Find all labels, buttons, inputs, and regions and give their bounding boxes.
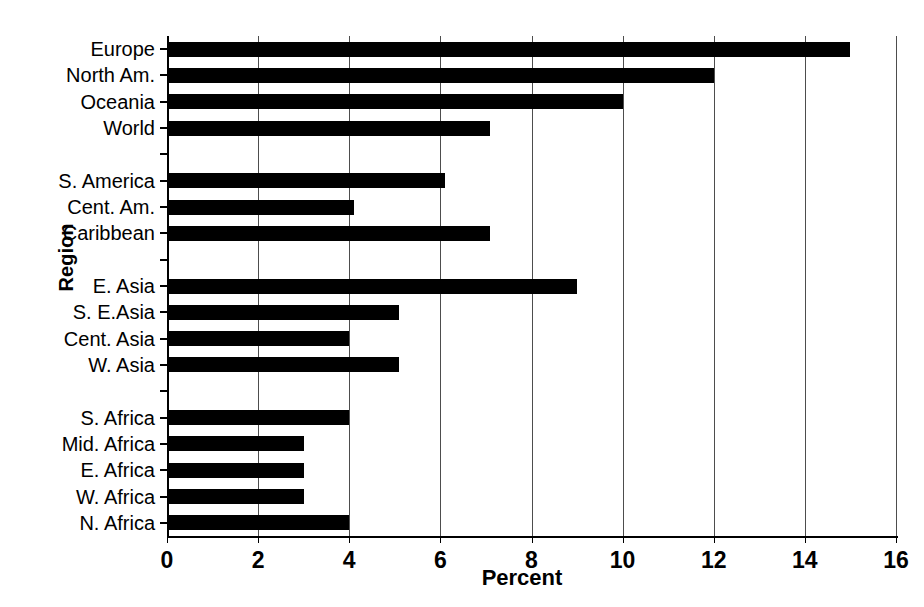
bar <box>167 68 714 83</box>
bar <box>167 489 304 504</box>
x-tick-0 <box>167 536 168 543</box>
bar <box>167 305 399 320</box>
y-tick-label: North Am. <box>0 64 155 86</box>
bar <box>167 200 354 215</box>
y-tick-label: World <box>0 117 155 139</box>
x-tick-14 <box>805 536 806 543</box>
y-tick-6 <box>160 206 167 208</box>
y-tick-12 <box>160 364 167 366</box>
y-tick-label: Cent. Am. <box>0 196 155 218</box>
y-tick-label: Oceania <box>0 91 155 113</box>
x-tick-12 <box>714 536 715 543</box>
x-axis-title-text: Percent <box>362 565 563 591</box>
y-tick-label: N. Africa <box>0 512 155 534</box>
plot-area: 0246810121416EuropeNorth Am.OceaniaWorld… <box>167 36 896 536</box>
x-tick-8 <box>532 536 533 543</box>
horizontal-bar-chart: Region 0246810121416EuropeNorth Am.Ocean… <box>0 0 924 607</box>
y-tick-label: Mid. Africa <box>0 433 155 455</box>
y-tick-label: Cent. Asia <box>0 328 155 350</box>
bar <box>167 121 490 136</box>
x-tick-10 <box>623 536 624 543</box>
y-tick-0 <box>160 48 167 50</box>
bar <box>167 173 445 188</box>
bar <box>167 279 577 294</box>
bar <box>167 436 304 451</box>
y-tick-label: E. Africa <box>0 459 155 481</box>
y-tick-label: S. E.Asia <box>0 301 155 323</box>
x-tick-6 <box>440 536 441 543</box>
bar <box>167 94 623 109</box>
y-tick-1 <box>160 74 167 76</box>
y-tick-15 <box>160 443 167 445</box>
y-tick-11 <box>160 338 167 340</box>
gridline-x-16 <box>896 36 897 536</box>
y-tick-label: W. Asia <box>0 354 155 376</box>
y-tick-3 <box>160 127 167 129</box>
bar <box>167 42 850 57</box>
y-tick-17 <box>160 496 167 498</box>
y-tick-16 <box>160 469 167 471</box>
y-tick-label: W. Africa <box>0 486 155 508</box>
y-tick-13 <box>160 390 167 392</box>
y-tick-label: S. America <box>0 170 155 192</box>
y-tick-14 <box>160 417 167 419</box>
bar <box>167 331 349 346</box>
bar <box>167 410 349 425</box>
gridline-x-14 <box>805 36 806 536</box>
y-tick-2 <box>160 101 167 103</box>
x-axis-title: Percent <box>0 565 924 591</box>
gridline-x-10 <box>623 36 624 536</box>
y-tick-4 <box>160 153 167 155</box>
x-tick-2 <box>258 536 259 543</box>
bar <box>167 515 349 530</box>
y-tick-10 <box>160 311 167 313</box>
x-tick-16 <box>896 536 897 543</box>
y-tick-5 <box>160 180 167 182</box>
y-tick-18 <box>160 522 167 524</box>
bar <box>167 463 304 478</box>
y-tick-label: S. Africa <box>0 407 155 429</box>
y-tick-9 <box>160 285 167 287</box>
x-tick-4 <box>349 536 350 543</box>
y-tick-label: Europe <box>0 38 155 60</box>
y-tick-7 <box>160 232 167 234</box>
y-tick-label: E. Asia <box>0 275 155 297</box>
x-axis-line <box>167 536 898 538</box>
bar <box>167 226 490 241</box>
bar <box>167 357 399 372</box>
gridline-x-12 <box>714 36 715 536</box>
y-tick-label: Caribbean <box>0 222 155 244</box>
y-tick-8 <box>160 259 167 261</box>
